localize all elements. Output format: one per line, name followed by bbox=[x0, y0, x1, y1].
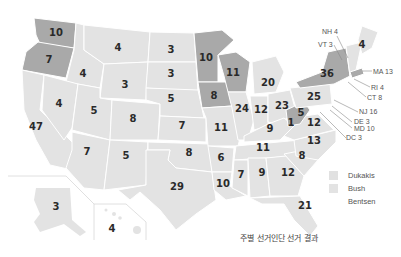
label-mi: 20 bbox=[261, 77, 275, 88]
label-ia: 8 bbox=[211, 90, 218, 101]
state-mi bbox=[252, 56, 284, 94]
label-ok: 8 bbox=[186, 147, 193, 158]
label-ut: 5 bbox=[91, 105, 98, 116]
callout-ma: MA 13 bbox=[373, 68, 393, 75]
callout-dc: DC 3 bbox=[346, 134, 362, 141]
label-nm: 5 bbox=[123, 150, 130, 161]
label-fl: 21 bbox=[298, 200, 312, 211]
label-ga: 12 bbox=[281, 167, 295, 178]
label-nc: 13 bbox=[307, 135, 321, 146]
legend-label-dukakis: Dukakis bbox=[348, 171, 375, 180]
callout-nh: NH 4 bbox=[322, 28, 338, 35]
label-tx: 29 bbox=[170, 181, 184, 192]
callout-md: MD 10 bbox=[354, 125, 375, 132]
label-ak: 3 bbox=[53, 201, 60, 212]
label-wv-extra: 1 bbox=[288, 117, 295, 128]
label-sd: 3 bbox=[168, 68, 175, 79]
label-nv: 4 bbox=[56, 98, 63, 109]
state-ak bbox=[34, 188, 86, 236]
legend-swatch-bush bbox=[329, 184, 338, 193]
label-ks: 7 bbox=[179, 120, 186, 131]
label-la: 10 bbox=[216, 178, 230, 189]
state-nm bbox=[104, 140, 148, 190]
label-me: 4 bbox=[359, 39, 366, 50]
label-co: 8 bbox=[130, 113, 137, 124]
callout-de: DE 3 bbox=[354, 118, 370, 125]
legend-swatch-bentsen bbox=[329, 197, 338, 206]
legend-item-dukakis: Dukakis bbox=[329, 169, 376, 182]
label-ny: 36 bbox=[320, 68, 334, 79]
label-va: 12 bbox=[307, 117, 321, 128]
label-ms: 7 bbox=[238, 169, 245, 180]
label-in: 12 bbox=[254, 104, 268, 115]
map-caption: 주별 선거인단 선거 결과 bbox=[240, 232, 318, 243]
callout-vt: VT 3 bbox=[318, 41, 333, 48]
callout-nj: NJ 16 bbox=[359, 108, 377, 115]
legend-swatch-dukakis bbox=[329, 171, 338, 180]
us-electoral-map: 10 7 47 4 4 4 3 5 7 8 5 3 3 5 7 8 29 10 … bbox=[0, 0, 401, 257]
callout-ct: CT 8 bbox=[367, 94, 382, 101]
label-wv: 5 bbox=[298, 107, 305, 118]
hawaii-inset-border bbox=[94, 204, 146, 240]
label-mn: 10 bbox=[199, 52, 213, 63]
label-ky: 9 bbox=[267, 123, 274, 134]
legend-label-bentsen: Bentsen bbox=[348, 197, 376, 206]
label-pa: 25 bbox=[307, 91, 321, 102]
label-az: 7 bbox=[84, 146, 91, 157]
label-wi: 11 bbox=[226, 67, 240, 78]
state-az bbox=[66, 132, 110, 190]
label-il: 24 bbox=[235, 103, 249, 114]
label-ne: 5 bbox=[168, 93, 175, 104]
label-oh: 23 bbox=[275, 100, 289, 111]
legend-item-bush: Bush bbox=[329, 182, 376, 195]
label-wa: 10 bbox=[49, 27, 63, 38]
legend-label-bush: Bush bbox=[348, 184, 365, 193]
label-sc: 8 bbox=[299, 150, 306, 161]
label-nd: 3 bbox=[168, 44, 175, 55]
label-al: 9 bbox=[259, 167, 266, 178]
label-mo: 11 bbox=[214, 122, 228, 133]
map-legend: Dukakis Bush Bentsen bbox=[329, 169, 376, 208]
label-hi: 4 bbox=[109, 223, 116, 234]
legend-item-bentsen: Bentsen bbox=[329, 195, 376, 208]
label-ar: 6 bbox=[218, 152, 225, 163]
label-mt: 4 bbox=[115, 42, 122, 53]
label-tn: 11 bbox=[256, 142, 270, 153]
label-wy: 3 bbox=[122, 79, 129, 90]
callout-ri: RI 4 bbox=[371, 84, 384, 91]
label-or: 7 bbox=[46, 54, 53, 65]
label-ca: 47 bbox=[29, 121, 43, 132]
label-id: 4 bbox=[80, 68, 87, 79]
